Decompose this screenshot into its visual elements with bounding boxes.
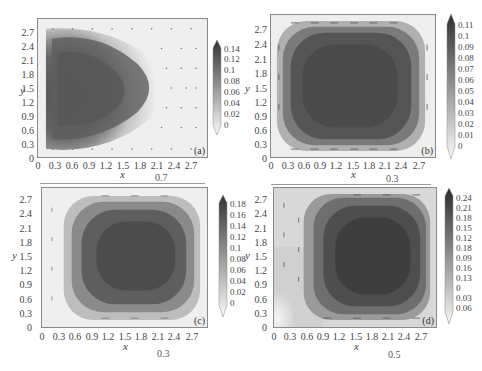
y-tick: 1.8: [12, 70, 34, 80]
y-tick: 0: [245, 323, 267, 333]
plot-area-b: (b): [270, 14, 436, 158]
y-tick: 0.6: [245, 126, 267, 136]
reference-vector-label-b: 0.3: [386, 173, 399, 184]
panel-label-b: (b): [421, 145, 433, 156]
y-tick: 2.4: [12, 42, 34, 52]
colorbar-tick: 0: [224, 121, 229, 130]
y-tick: 1.2: [12, 98, 34, 108]
colorbar-tick: 0.13: [456, 274, 472, 283]
panel-c: (c) 2.7 2.4 2.1 1.8 1.5 1.2 0.9 0.6 0.3 …: [0, 185, 241, 371]
y-tick: 2.7: [12, 28, 34, 38]
x-tick: 2.7: [186, 332, 199, 342]
colorbar-tick: 0.15: [456, 224, 472, 233]
x-tick: 0.3: [49, 161, 62, 171]
reference-vector-label-d: 0.5: [388, 349, 401, 360]
colorbar-gradient-b: [446, 14, 456, 159]
y-tick: 2.4: [245, 209, 267, 219]
x-tick: 1.2: [333, 332, 346, 342]
y-tick: 0.3: [245, 140, 267, 150]
colorbar-b: 0.11 0.1 0.09 0.08 0.07 0.06 0.05 0.04 0…: [446, 14, 482, 159]
colorbar-tick: 0.24: [456, 194, 472, 203]
panel-a: (a) 2.7 2.4 2.1 1.8 1.5 1.2 0.9 0.6 0.3 …: [0, 0, 241, 185]
colorbar-tick: 0.09: [458, 43, 474, 52]
contour-field-d: [274, 188, 436, 327]
colorbar-tick: 0.08: [224, 77, 240, 86]
y-tick: 1.2: [245, 266, 267, 276]
x-axis-label-c: x: [123, 340, 128, 352]
colorbar-tick: 0.07: [458, 65, 474, 74]
colorbar-gradient-d: [444, 188, 454, 324]
y-tick: 0.9: [12, 112, 34, 122]
colorbar-tick: 0.18: [456, 244, 472, 253]
x-tick: 0.9: [83, 161, 96, 171]
colorbar-gradient-c: [218, 195, 228, 317]
colorbar-tick: 0.02: [458, 120, 474, 129]
y-axis-label-c: y: [12, 249, 17, 261]
x-axis-label-d: x: [354, 340, 359, 352]
colorbar-tick: 0.18: [456, 214, 472, 223]
panel-label-c: (c): [194, 315, 205, 326]
colorbar-tick: 0: [458, 142, 463, 151]
x-tick: 2.7: [413, 161, 426, 171]
x-tick: 2.1: [151, 161, 164, 171]
x-tick: 0: [269, 161, 274, 171]
colorbar-tick: 0.06: [456, 304, 472, 313]
plot-area-c: (c): [41, 187, 208, 328]
y-axis-label-d: y: [245, 249, 250, 261]
y-tick: 1.8: [245, 69, 267, 79]
x-tick: 0.9: [86, 332, 99, 342]
panel-label-d: (d): [422, 315, 434, 326]
colorbar-tick: 0.04: [224, 99, 240, 108]
x-tick: 1.2: [330, 161, 343, 171]
x-tick: 0.9: [314, 161, 327, 171]
y-tick: 2.1: [12, 56, 34, 66]
y-tick: 0.3: [245, 309, 267, 319]
y-tick: 1.8: [245, 238, 267, 248]
x-tick: 2.1: [152, 332, 165, 342]
colorbar-tick: 0.06: [224, 88, 240, 97]
colorbar-tick: 0.11: [458, 21, 473, 30]
y-tick: 2.1: [10, 224, 32, 234]
y-tick: 0.9: [245, 112, 267, 122]
x-tick: 1.2: [102, 332, 115, 342]
colorbar-tick: 0.05: [458, 87, 474, 96]
colorbar-tick: 0.14: [224, 45, 240, 54]
x-tick: 1.8: [135, 332, 148, 342]
colorbar-a: 0.14 0.12 0.1 0.08 0.06 0.04 0.02 0: [212, 40, 242, 135]
y-tick: 0.9: [245, 280, 267, 290]
colorbar-tick: 0.12: [456, 234, 472, 243]
panel-d: (d) 2.7 2.4 2.1 1.8 1.5 1.2 0.9 0.6 0.3 …: [241, 185, 482, 371]
reference-vector-label-a: 0.7: [155, 172, 168, 183]
x-tick: 0.9: [317, 332, 330, 342]
colorbar-tick: 0.09: [456, 254, 472, 263]
x-tick: 0.6: [298, 161, 311, 171]
x-tick: 0.3: [53, 332, 66, 342]
y-axis-label-a: y: [20, 84, 25, 96]
colorbar-tick: 0.16: [456, 264, 472, 273]
plot-area-a: (a): [37, 18, 208, 158]
contour-field-b: [271, 15, 435, 157]
y-tick: 2.1: [245, 55, 267, 65]
panel-label-a: (a): [194, 145, 205, 156]
reference-vector-a: [40, 183, 205, 184]
colorbar-tick: 0.03: [458, 109, 474, 118]
x-tick: 2.4: [168, 332, 181, 342]
y-tick: 0.6: [10, 295, 32, 305]
y-tick: 0: [10, 323, 32, 333]
x-tick: 1.8: [363, 161, 376, 171]
colorbar-tick: 0.06: [458, 76, 474, 85]
y-tick: 0.9: [10, 280, 32, 290]
y-tick: 2.4: [10, 209, 32, 219]
y-tick: 0.3: [10, 309, 32, 319]
x-tick: 2.1: [379, 161, 392, 171]
colorbar-tick: 0.21: [456, 204, 472, 213]
colorbar-tick: 0.03: [456, 294, 472, 303]
x-tick: 0: [36, 161, 41, 171]
y-tick: 0: [12, 154, 34, 164]
colorbar-gradient-a: [212, 40, 222, 135]
x-tick: 1.8: [366, 332, 379, 342]
colorbar-tick: 0.02: [224, 110, 240, 119]
x-tick: 2.7: [415, 332, 428, 342]
colorbar-tick: 0: [230, 299, 235, 308]
y-tick: 1.2: [245, 98, 267, 108]
